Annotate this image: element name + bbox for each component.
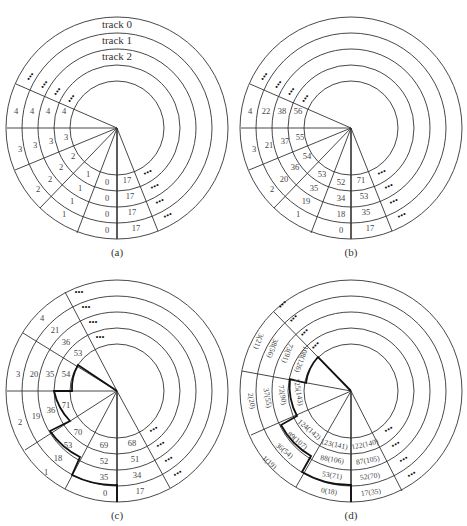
svg-text:2: 2	[71, 151, 75, 161]
svg-text:36: 36	[291, 162, 300, 172]
svg-text:19: 19	[32, 411, 41, 421]
ellipsis-icon: •••	[153, 195, 165, 208]
svg-text:3: 3	[252, 144, 256, 154]
svg-text:34: 34	[337, 193, 346, 203]
svg-text:3: 3	[18, 144, 22, 154]
track-labels: track 0 track 1 track 2	[102, 18, 133, 62]
svg-text:2: 2	[59, 162, 63, 172]
svg-text:56: 56	[294, 106, 303, 116]
ellipsis-icon: •••	[89, 317, 98, 327]
disk-diagram-b: 0 18 34 52 1 19 35 53 2 20 36 54 3 21 37…	[234, 0, 467, 263]
svg-text:52(70): 52(70)	[359, 470, 381, 482]
svg-text:38: 38	[278, 106, 287, 116]
svg-text:54: 54	[62, 369, 71, 379]
ellipsis-icon: •••	[287, 312, 300, 325]
ellipsis-icon: •••	[50, 85, 63, 98]
caption-a: (a)	[0, 246, 234, 258]
svg-text:123(141): 123(141)	[320, 437, 349, 452]
svg-text:53: 53	[64, 440, 73, 450]
svg-text:1: 1	[296, 209, 300, 219]
sector-numbers: 0 0 0 0 1 1 1 1 2 2 2 2 3 3 3 3 4 4 4 4 …	[14, 106, 140, 235]
panel-b: 0 18 34 52 1 19 35 53 2 20 36 54 3 21 37…	[234, 0, 467, 263]
svg-text:87(105): 87(105)	[355, 454, 380, 467]
svg-text:70: 70	[74, 427, 83, 437]
svg-text:53: 53	[318, 169, 327, 179]
ellipsis-icon: •••	[298, 92, 311, 105]
ellipsis-icon: •••	[154, 438, 167, 451]
ellipsis-icon: •••	[171, 467, 184, 480]
ellipsis-icon: •••	[64, 92, 77, 105]
svg-text:35: 35	[310, 183, 319, 193]
svg-text:54: 54	[303, 151, 312, 161]
svg-text:35: 35	[46, 369, 55, 379]
svg-text:0: 0	[105, 193, 109, 203]
svg-text:17: 17	[128, 207, 137, 217]
svg-text:53: 53	[360, 191, 369, 201]
svg-text:53(71): 53(71)	[322, 469, 344, 481]
svg-text:track 1: track 1	[102, 34, 132, 46]
ellipsis-icon: •••	[141, 166, 153, 179]
svg-text:18: 18	[54, 453, 63, 463]
caption-c: (c)	[0, 509, 234, 521]
panel-a: track 0 track 1 track 2 0 0 0 0 1 1 1 1 …	[0, 0, 234, 263]
svg-text:19: 19	[302, 196, 311, 206]
sector-numbers: 0(18) 53(71) 88(106) 123(141) 1(19) 36(5…	[246, 332, 382, 498]
svg-text:0: 0	[103, 488, 107, 498]
svg-text:3: 3	[33, 140, 37, 150]
svg-text:4: 4	[46, 106, 51, 116]
svg-text:21: 21	[265, 140, 274, 150]
svg-text:52: 52	[100, 456, 109, 466]
svg-text:0: 0	[105, 177, 109, 187]
ellipsis-icon: •••	[387, 195, 399, 208]
svg-text:51: 51	[131, 454, 140, 464]
svg-text:35: 35	[362, 207, 371, 217]
svg-text:34: 34	[133, 470, 142, 480]
ellipsis-icon: •••	[96, 332, 105, 342]
svg-text:35: 35	[100, 472, 109, 482]
svg-text:0(18): 0(18)	[320, 486, 338, 497]
svg-text:71: 71	[357, 175, 366, 185]
svg-text:3: 3	[49, 136, 53, 146]
svg-text:4: 4	[30, 106, 35, 116]
svg-text:4: 4	[62, 106, 67, 116]
svg-text:3: 3	[64, 132, 68, 142]
svg-text:3: 3	[16, 369, 20, 379]
svg-text:track 2: track 2	[102, 50, 132, 62]
svg-text:0: 0	[105, 209, 109, 219]
svg-text:4: 4	[40, 313, 45, 323]
svg-text:1: 1	[44, 467, 48, 477]
svg-text:4: 4	[14, 106, 19, 116]
svg-text:1: 1	[62, 209, 66, 219]
svg-text:17: 17	[366, 223, 375, 233]
svg-text:88(106): 88(106)	[320, 453, 345, 466]
disk-diagram-d: 0(18) 53(71) 88(106) 123(141) 1(19) 36(5…	[234, 263, 467, 526]
svg-text:20: 20	[280, 174, 289, 184]
ellipsis-icon: •••	[284, 85, 297, 98]
ellipsis-icon: •••	[375, 166, 387, 179]
ellipsis-icon: •••	[395, 209, 407, 222]
svg-text:53: 53	[74, 348, 83, 358]
svg-text:17: 17	[126, 191, 135, 201]
svg-text:18: 18	[337, 209, 346, 219]
ellipsis-icon: •••	[382, 180, 394, 193]
caption-d: (d)	[234, 509, 467, 521]
caption-b: (b)	[234, 246, 467, 258]
sector-numbers: 0 18 34 52 1 19 35 53 2 20 36 54 3 21 37…	[248, 106, 374, 235]
svg-text:55: 55	[296, 132, 305, 142]
ellipsis-icon: •••	[147, 423, 160, 436]
svg-text:3(21): 3(21)	[252, 332, 266, 351]
svg-text:2: 2	[18, 417, 22, 427]
svg-text:38(56): 38(56)	[265, 337, 280, 359]
svg-text:2(20): 2(20)	[246, 392, 258, 410]
svg-text:73(91): 73(91)	[280, 342, 295, 364]
svg-text:72(90): 72(90)	[277, 384, 289, 406]
svg-text:71: 71	[62, 400, 71, 410]
svg-text:36: 36	[47, 405, 56, 415]
svg-text:1: 1	[78, 183, 82, 193]
ellipsis-icon: •••	[82, 302, 91, 312]
ellipsis-icon: •••	[397, 453, 410, 466]
svg-text:69: 69	[100, 440, 109, 450]
svg-text:37: 37	[281, 136, 290, 146]
svg-text:17: 17	[123, 175, 132, 185]
ellipsis-icon: •••	[148, 180, 160, 193]
